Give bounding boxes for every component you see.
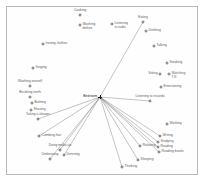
figure-canvas: CookingWashing dishesIroning clothesSing… xyxy=(0,0,208,185)
plot-frame xyxy=(6,6,198,175)
